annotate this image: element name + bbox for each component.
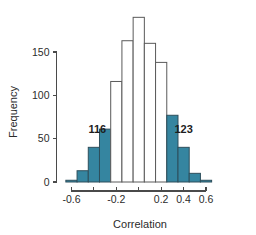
y-axis-tick-label: 150 bbox=[32, 46, 50, 58]
histogram-bar bbox=[88, 147, 99, 182]
histogram-figure: 050100150-0.6-0.20.20.40.6 116123 Correl… bbox=[0, 0, 256, 235]
x-axis-tick-label: 0.2 bbox=[154, 193, 169, 205]
x-axis-tick-label: -0.6 bbox=[62, 193, 80, 205]
histogram-bar bbox=[66, 180, 77, 182]
y-axis-tick-label: 100 bbox=[32, 89, 50, 101]
x-axis-tick-label: 0.6 bbox=[199, 193, 214, 205]
x-axis-tick-label: 0.4 bbox=[176, 193, 191, 205]
histogram-bar bbox=[77, 171, 88, 182]
bars-layer bbox=[66, 17, 212, 182]
histogram-bar bbox=[111, 81, 122, 182]
y-axis-tick-label: 50 bbox=[38, 132, 50, 144]
y-axis-tick-label: 0 bbox=[44, 176, 50, 188]
histogram-bar bbox=[189, 173, 200, 182]
histogram-bar bbox=[200, 180, 211, 182]
histogram-bar bbox=[99, 129, 110, 182]
histogram-bar bbox=[133, 17, 144, 182]
y-axis-title: Frequency bbox=[7, 86, 19, 138]
histogram-bar bbox=[122, 41, 133, 182]
histogram-bar bbox=[144, 43, 155, 182]
bar-count-annotation: 116 bbox=[88, 123, 106, 135]
histogram-bar bbox=[156, 62, 167, 182]
x-axis-title: Correlation bbox=[113, 218, 167, 230]
bar-count-annotation: 123 bbox=[174, 123, 192, 135]
histogram-bar bbox=[178, 147, 189, 182]
histogram-plot: 050100150-0.6-0.20.20.40.6 116123 Correl… bbox=[0, 0, 256, 235]
x-axis-tick-label: -0.2 bbox=[107, 193, 125, 205]
